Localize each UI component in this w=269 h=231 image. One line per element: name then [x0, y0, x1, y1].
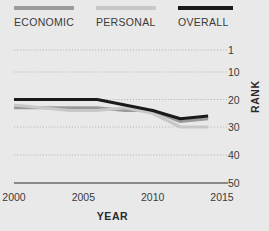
x-tick-label-2010: 2010 — [141, 191, 164, 203]
legend-swatch-personal — [96, 6, 156, 10]
legend-label-overall: OVERALL — [178, 16, 233, 28]
y-tick-label-1: 1 — [228, 44, 234, 56]
x-tick-label-2015: 2015 — [210, 191, 233, 203]
legend-item-personal[interactable]: PERSONAL — [96, 6, 156, 28]
chart-legend: ECONOMIC PERSONAL OVERALL — [0, 0, 269, 40]
legend-label-economic: ECONOMIC — [14, 16, 74, 28]
y-tick-label-30: 30 — [228, 121, 240, 133]
y-axis-title: RANK — [249, 80, 261, 113]
series-line-personal — [14, 105, 208, 127]
plot-canvas — [0, 40, 269, 190]
y-tick-label-40: 40 — [228, 149, 240, 161]
y-tick-label-20: 20 — [228, 94, 240, 106]
plot-area — [0, 40, 269, 190]
legend-item-economic[interactable]: ECONOMIC — [14, 6, 74, 28]
y-tick-label-10: 10 — [228, 66, 240, 78]
x-tick-label-2000: 2000 — [2, 191, 25, 203]
legend-item-overall[interactable]: OVERALL — [178, 6, 233, 28]
rank-line-chart: ECONOMIC PERSONAL OVERALL 11020304050 20… — [0, 0, 269, 231]
y-tick-label-50: 50 — [228, 177, 240, 189]
legend-swatch-overall — [178, 6, 233, 10]
legend-label-personal: PERSONAL — [96, 16, 156, 28]
legend-swatch-economic — [14, 6, 74, 10]
x-tick-label-2005: 2005 — [72, 191, 95, 203]
x-axis-title: YEAR — [0, 210, 225, 222]
